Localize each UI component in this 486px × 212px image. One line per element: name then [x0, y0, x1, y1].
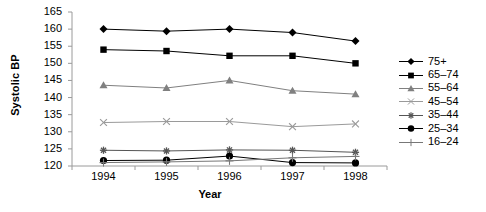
series-75+ — [100, 25, 360, 45]
legend-marker-icon — [398, 54, 424, 67]
legend-item[interactable]: 45–54 — [398, 94, 484, 107]
legend-item[interactable]: 65–74 — [398, 67, 484, 80]
legend-item-label: 35–44 — [424, 108, 459, 120]
legend-marker-icon — [398, 94, 424, 107]
x-axis-title: Year — [60, 188, 360, 200]
legend-item[interactable]: 75+ — [398, 54, 484, 67]
line-chart: Systolic BP 1201251301351401451501551601… — [0, 0, 486, 212]
legend-marker-icon — [398, 68, 424, 81]
legend-item[interactable]: 55–64 — [398, 81, 484, 94]
legend-marker-icon — [398, 135, 424, 148]
legend-item-label: 75+ — [424, 55, 447, 67]
legend-marker-icon — [398, 108, 424, 121]
legend-item[interactable]: 16–24 — [398, 134, 484, 147]
axis-lines — [68, 12, 387, 170]
series-65-74 — [100, 46, 358, 66]
legend-item-label: 65–74 — [424, 68, 459, 80]
legend: 75+65–7455–6445–5435–4425–3416–24 — [398, 54, 484, 148]
x-axis-title-label: Year — [198, 188, 221, 200]
series-45-54 — [100, 118, 359, 130]
legend-item[interactable]: 25–34 — [398, 121, 484, 134]
legend-item-label: 16–24 — [424, 135, 459, 147]
legend-item[interactable]: 35–44 — [398, 108, 484, 121]
legend-marker-icon — [398, 121, 424, 134]
series-layer — [100, 25, 360, 166]
legend-marker-icon — [398, 81, 424, 94]
legend-item-label: 55–64 — [424, 81, 459, 93]
series-55-64 — [100, 76, 360, 97]
legend-item-label: 45–54 — [424, 95, 459, 107]
legend-item-label: 25–34 — [424, 122, 459, 134]
